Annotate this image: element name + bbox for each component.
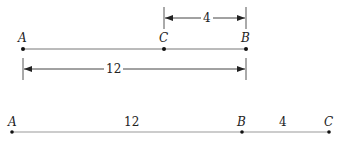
- dimension-label-cb: 4: [201, 12, 213, 24]
- segment-label-ab: 12: [124, 116, 139, 128]
- point-label-a-top: A: [18, 32, 27, 44]
- dimension-ab: [23, 58, 246, 80]
- dimension-label-ab: 12: [104, 63, 123, 75]
- segment-acb: [21, 47, 248, 51]
- segment-label-bc: 4: [279, 116, 287, 128]
- point-label-b-top: B: [241, 32, 250, 44]
- point-label-c-top: C: [159, 32, 168, 44]
- segment-diagram: [0, 0, 341, 142]
- segment-abc: [10, 130, 331, 134]
- point-label-b-bottom: B: [237, 116, 246, 128]
- point-label-c-bottom: C: [324, 116, 333, 128]
- point-label-a-bottom: A: [8, 116, 17, 128]
